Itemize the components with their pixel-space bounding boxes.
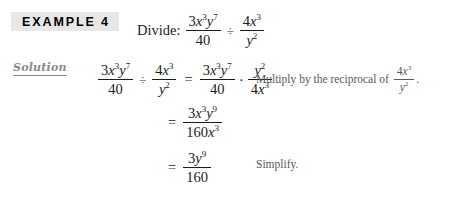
step3-result-fraction: 3y9 160 xyxy=(183,150,211,185)
step3-annotation-text: Simplify. xyxy=(256,158,298,170)
step1-left-fraction-b: 4x3 y2 xyxy=(152,62,176,97)
problem-left-fraction: 3x3y7 40 xyxy=(186,13,221,48)
solution-step-1: 3x3y7 40 ÷ 4x3 y2 = 3x3y7 40 · y2 4x3 xyxy=(97,62,273,97)
step1-right-fraction-a: 3x3y7 40 xyxy=(200,62,235,97)
step1-annotation-text: Multiply by the reciprocal of xyxy=(256,73,389,85)
step1-annotation: Multiply by the reciprocal of 4x3 y2 . xyxy=(256,65,419,94)
step1-left-fraction-a: 3x3y7 40 xyxy=(98,62,133,97)
step2-denominator: 160x3 xyxy=(183,124,222,140)
problem-right-numerator: 4x3 xyxy=(240,13,264,29)
problem-right-fraction: 4x3 y2 xyxy=(240,13,264,48)
step2-equals: = xyxy=(168,114,176,131)
step1-annotation-period: . xyxy=(416,73,419,85)
example-panel: EXAMPLE 4 Divide: 3x3y7 40 ÷ 4x3 y2 Solu… xyxy=(0,0,449,197)
fraction-bar xyxy=(200,79,235,80)
fraction-bar xyxy=(98,79,133,80)
step1-annotation-fraction: 4x3 y2 xyxy=(394,65,414,94)
step1-multiplication-dot: · xyxy=(239,72,244,89)
problem-statement: Divide: 3x3y7 40 ÷ 4x3 y2 xyxy=(137,13,265,48)
solution-label: Solution xyxy=(13,61,67,76)
fraction-bar xyxy=(186,30,221,31)
division-operator: ÷ xyxy=(227,23,234,39)
solution-step-2: = 3x3y9 160x3 xyxy=(168,105,223,140)
step3-numerator: 3y9 xyxy=(185,150,209,166)
step1-division-operator: ÷ xyxy=(139,72,146,88)
problem-right-denominator: y2 xyxy=(243,32,260,48)
step3-annotation: Simplify. xyxy=(256,158,298,170)
solution-step-3: = 3y9 160 xyxy=(168,150,212,185)
fraction-bar xyxy=(183,167,211,168)
directive-label: Divide: xyxy=(137,22,181,39)
problem-left-numerator: 3x3y7 xyxy=(186,13,221,29)
step2-numerator: 3x3y9 xyxy=(185,105,220,121)
step3-equals: = xyxy=(168,159,176,176)
example-number-badge: EXAMPLE 4 xyxy=(11,12,119,31)
step2-result-fraction: 3x3y9 160x3 xyxy=(183,105,222,140)
problem-left-denominator: 40 xyxy=(193,32,214,48)
step1-equals: = xyxy=(184,71,192,88)
step3-denominator: 160 xyxy=(183,169,211,185)
